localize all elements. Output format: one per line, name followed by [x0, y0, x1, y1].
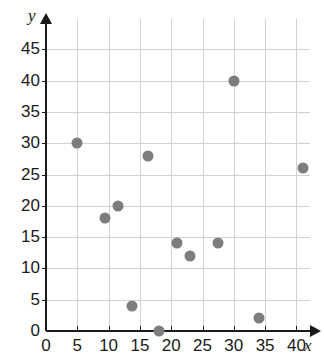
y-axis-tick — [42, 206, 47, 207]
x-axis-tick-label: 0 — [41, 336, 50, 356]
data-point — [112, 200, 123, 211]
data-point — [228, 75, 239, 86]
x-axis-tick-label: 30 — [224, 336, 243, 356]
data-point — [297, 163, 308, 174]
y-axis-tick — [42, 175, 47, 176]
x-axis-tick — [77, 326, 78, 331]
x-axis-tick — [203, 326, 204, 331]
x-axis-tick — [265, 326, 266, 331]
x-axis-tick-label: 20 — [162, 336, 181, 356]
x-axis-tick — [109, 326, 110, 331]
y-axis-label: y — [28, 6, 36, 26]
y-axis-tick — [42, 143, 47, 144]
y-axis-tick — [42, 112, 47, 113]
y-axis-tick — [42, 237, 47, 238]
x-axis-tick-label: 10 — [99, 336, 118, 356]
gridline-horizontal — [46, 49, 310, 50]
y-axis-tick-label: 25 — [21, 165, 40, 185]
gridline-horizontal — [46, 300, 310, 301]
data-point — [143, 150, 154, 161]
data-point — [127, 300, 138, 311]
gridline-horizontal — [46, 81, 310, 82]
y-axis-tick-label: 15 — [21, 227, 40, 247]
data-point — [153, 326, 164, 337]
y-axis-tick-label: 5 — [31, 290, 40, 310]
gridline-horizontal — [46, 143, 310, 144]
y-axis-tick-label: 10 — [21, 258, 40, 278]
gridline-horizontal — [46, 112, 310, 113]
x-axis-tick — [46, 326, 47, 331]
x-axis-tick — [296, 326, 297, 331]
gridline-horizontal — [46, 206, 310, 207]
y-axis-tick — [42, 268, 47, 269]
data-point — [184, 250, 195, 261]
y-axis-tick — [42, 49, 47, 50]
y-axis-line — [45, 22, 47, 331]
y-axis-tick-label: 45 — [21, 39, 40, 59]
x-axis-tick-label: 25 — [193, 336, 212, 356]
x-axis-tick — [171, 326, 172, 331]
y-axis-arrow-icon — [40, 13, 52, 24]
x-axis-tick — [234, 326, 235, 331]
data-point — [172, 238, 183, 249]
x-axis-label: x — [304, 336, 312, 356]
x-axis-tick-label: 35 — [256, 336, 275, 356]
x-axis-tick-label: 15 — [130, 336, 149, 356]
gridline-horizontal — [46, 268, 310, 269]
y-axis-tick-label: 40 — [21, 71, 40, 91]
scatter-plot: 0510152025303540051015202530354045 y x — [0, 0, 324, 363]
y-axis-tick — [42, 81, 47, 82]
data-point — [100, 213, 111, 224]
x-axis-tick — [140, 326, 141, 331]
y-axis-tick-label: 30 — [21, 133, 40, 153]
x-axis-line — [46, 330, 312, 332]
data-point — [72, 138, 83, 149]
x-axis-tick-label: 5 — [73, 336, 82, 356]
data-point — [213, 238, 224, 249]
y-axis-tick-label: 35 — [21, 102, 40, 122]
data-point — [253, 313, 264, 324]
gridline-horizontal — [46, 175, 310, 176]
x-axis-tick-label: 40 — [287, 336, 306, 356]
y-axis-tick — [42, 300, 47, 301]
y-axis-tick-label: 20 — [21, 196, 40, 216]
y-axis-tick-label: 0 — [31, 321, 40, 341]
